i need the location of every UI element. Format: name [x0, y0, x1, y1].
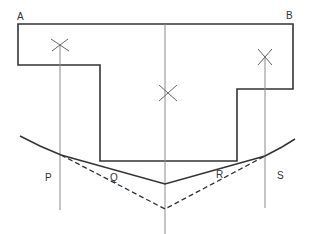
label-s: S	[277, 170, 284, 181]
label-r: R	[216, 169, 223, 180]
cross-mark-center	[159, 85, 177, 101]
label-p: P	[45, 172, 52, 183]
label-q: Q	[110, 172, 118, 183]
label-a: A	[17, 11, 24, 22]
solid-curve	[20, 136, 295, 184]
label-b: B	[286, 10, 293, 21]
structure-diagram: A B P Q R S	[0, 0, 318, 234]
